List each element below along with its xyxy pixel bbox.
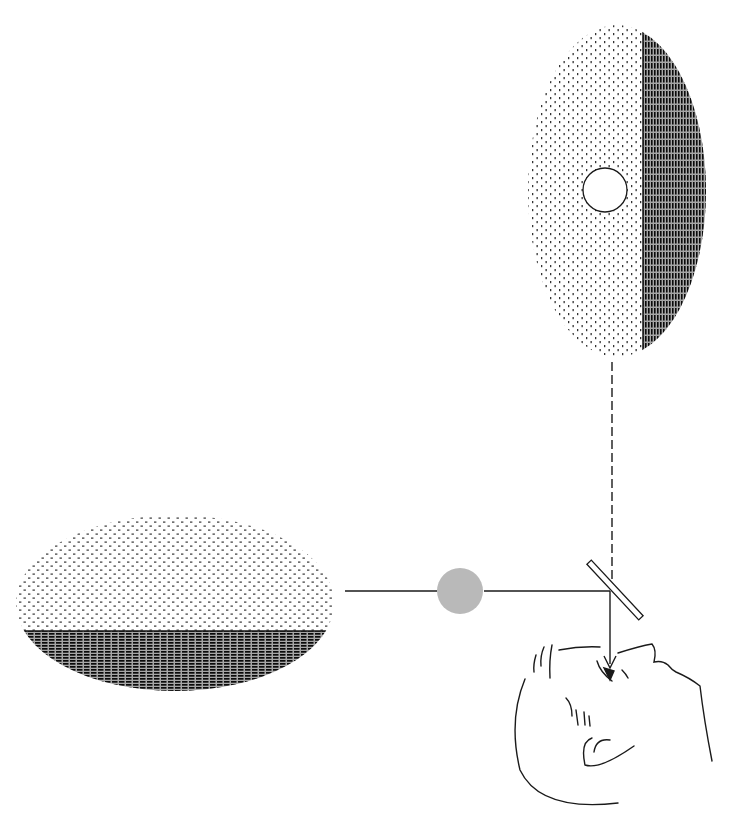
half-silvered-mirror — [587, 560, 643, 620]
test-disc-grey — [437, 568, 483, 614]
viewer-head-icon — [515, 644, 712, 805]
left-field-light-half — [10, 510, 340, 631]
vision-experiment-diagram — [0, 0, 736, 832]
test-disc-white — [583, 168, 627, 212]
left-stimulus-field — [10, 510, 340, 701]
